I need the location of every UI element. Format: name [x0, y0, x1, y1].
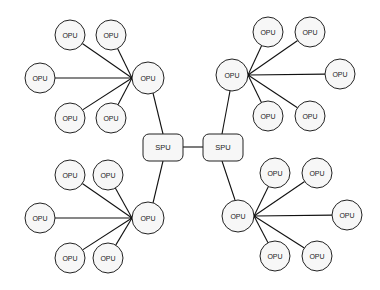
- opu-leaf-bottom-left-1[interactable]: OPU: [93, 160, 123, 190]
- spu-right-node[interactable]: SPU: [203, 134, 243, 161]
- opu-leaf-bottom-right-3-label: OPU: [267, 253, 282, 260]
- opu-leaf-bottom-right-0-label: OPU: [267, 170, 282, 177]
- opu-leaf-bottom-left-3[interactable]: OPU: [55, 243, 85, 273]
- opu-leaf-bottom-right-1[interactable]: OPU: [302, 158, 332, 188]
- opu-hub-top-right[interactable]: OPU: [216, 59, 248, 91]
- opu-hub-bottom-right-label: OPU: [230, 213, 245, 220]
- opu-leaf-top-right-0[interactable]: OPU: [253, 17, 283, 47]
- opu-leaf-top-right-3-label: OPU: [260, 113, 275, 120]
- spu-left-label: SPU: [155, 143, 170, 152]
- spu-left-node[interactable]: SPU: [143, 134, 183, 161]
- opu-leaf-top-left-4-label: OPU: [103, 115, 118, 122]
- opu-leaf-top-left-2-label: OPU: [32, 75, 47, 82]
- opu-leaf-top-right-2[interactable]: OPU: [325, 59, 355, 89]
- opu-leaf-bottom-left-0-label: OPU: [62, 172, 77, 179]
- opu-leaf-bottom-right-3[interactable]: OPU: [260, 241, 290, 271]
- hub-spu-edge-bottom-right: [222, 161, 235, 200]
- leaf-edge-bottom-right-2: [254, 215, 332, 216]
- hub-spu-edge-bottom-left: [153, 161, 163, 203]
- opu-hub-bottom-left[interactable]: OPU: [132, 202, 164, 234]
- opu-leaf-top-right-4[interactable]: OPU: [295, 101, 325, 131]
- opu-leaf-bottom-left-4[interactable]: OPU: [93, 243, 123, 273]
- opu-leaf-bottom-right-4-label: OPU: [309, 253, 324, 260]
- opu-leaf-top-right-1[interactable]: OPU: [295, 17, 325, 47]
- nodes: SPUSPUOPUOPUOPUOPUOPUOPUOPUOPUOPUOPUOPUO…: [25, 17, 362, 273]
- opu-leaf-bottom-right-2[interactable]: OPU: [332, 200, 362, 230]
- network-diagram: SPUSPUOPUOPUOPUOPUOPUOPUOPUOPUOPUOPUOPUO…: [0, 0, 380, 290]
- opu-hub-top-right-label: OPU: [224, 72, 239, 79]
- opu-leaf-top-left-0[interactable]: OPU: [55, 20, 85, 50]
- hub-spu-edge-top-right: [222, 91, 230, 134]
- opu-hub-bottom-left-label: OPU: [140, 215, 155, 222]
- spu-right-label: SPU: [215, 143, 230, 152]
- leaf-edge-top-right-2: [248, 74, 325, 75]
- opu-leaf-bottom-left-4-label: OPU: [100, 255, 115, 262]
- opu-leaf-top-right-4-label: OPU: [302, 113, 317, 120]
- opu-leaf-top-left-3-label: OPU: [62, 115, 77, 122]
- opu-leaf-bottom-right-0[interactable]: OPU: [260, 158, 290, 188]
- opu-leaf-top-right-2-label: OPU: [332, 71, 347, 78]
- opu-leaf-top-left-1[interactable]: OPU: [96, 20, 126, 50]
- opu-leaf-bottom-right-4[interactable]: OPU: [302, 241, 332, 271]
- opu-leaf-top-left-3[interactable]: OPU: [55, 103, 85, 133]
- edges: [55, 41, 332, 250]
- hub-spu-edge-top-left: [153, 93, 163, 134]
- opu-leaf-bottom-left-3-label: OPU: [62, 255, 77, 262]
- leaf-edge-bottom-left-1: [115, 188, 132, 218]
- opu-leaf-bottom-left-0[interactable]: OPU: [55, 160, 85, 190]
- opu-leaf-bottom-left-1-label: OPU: [100, 172, 115, 179]
- opu-leaf-top-right-3[interactable]: OPU: [253, 101, 283, 131]
- opu-leaf-bottom-left-2-label: OPU: [32, 215, 47, 222]
- opu-leaf-top-left-2[interactable]: OPU: [25, 63, 55, 93]
- opu-hub-top-left[interactable]: OPU: [132, 62, 164, 94]
- leaf-edge-bottom-left-4: [116, 218, 132, 245]
- opu-leaf-top-left-4[interactable]: OPU: [96, 103, 126, 133]
- opu-leaf-top-right-1-label: OPU: [302, 29, 317, 36]
- opu-leaf-top-left-0-label: OPU: [62, 32, 77, 39]
- opu-hub-bottom-right[interactable]: OPU: [222, 200, 254, 232]
- opu-leaf-top-right-0-label: OPU: [260, 29, 275, 36]
- opu-leaf-bottom-right-1-label: OPU: [309, 170, 324, 177]
- opu-hub-top-left-label: OPU: [140, 75, 155, 82]
- opu-leaf-top-left-1-label: OPU: [103, 32, 118, 39]
- opu-leaf-bottom-right-2-label: OPU: [339, 212, 354, 219]
- opu-leaf-bottom-left-2[interactable]: OPU: [25, 203, 55, 233]
